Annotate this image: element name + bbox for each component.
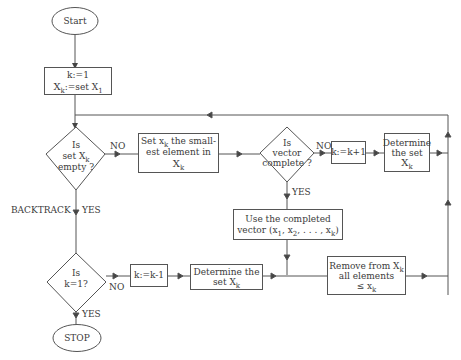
determine2-line2: set Xk	[213, 277, 240, 287]
use-vector-line2: vector (x1, x2, . . . , xk)	[237, 225, 338, 236]
empty-no-label: NO	[110, 141, 125, 151]
remove-elements-box: Remove from Xk all elements ≤ xk	[327, 256, 406, 295]
empty-line2: set Xk	[62, 151, 89, 162]
complete-line1: Is	[283, 138, 291, 148]
empty-decision: Is set Xk empty ?	[52, 136, 100, 176]
use-vector-line1: Use the completed	[245, 214, 331, 225]
start-label: Start	[63, 16, 86, 27]
remove-line2: all elements	[339, 271, 394, 281]
set-smallest-line1: Set xk the small-	[141, 136, 216, 147]
set-smallest-line3: Xk	[173, 158, 184, 170]
determine1-line3: Xk	[401, 158, 412, 168]
empty-yes-label: YES	[82, 205, 101, 215]
determine2-line1: Determine the	[194, 267, 260, 277]
k1-decision: Is k=1?	[56, 266, 96, 292]
remove-line3: ≤ xk	[357, 281, 377, 291]
init-box: k:=1 Xk:=set X1	[44, 67, 112, 95]
determine-set-box-1: Determine the set Xk	[384, 133, 430, 172]
k1-yes-label: YES	[82, 309, 101, 319]
init-line1: k:=1	[67, 70, 89, 81]
empty-line1: Is	[72, 140, 80, 151]
flowchart-connectors	[0, 0, 461, 360]
empty-line3: empty ?	[58, 162, 94, 173]
complete-yes-label: YES	[292, 187, 311, 197]
increment-k-box: k:=k+1	[331, 141, 366, 164]
determine1-line1: Determine	[383, 138, 431, 148]
init-line2: Xk:=set X1	[53, 81, 102, 93]
complete-no-label: NO	[316, 141, 331, 151]
stop-label: STOP	[64, 333, 90, 344]
start-terminal: Start	[52, 8, 98, 35]
increment-k-label: k:=k+1	[331, 147, 366, 158]
decrement-k-box: k:=k-1	[130, 264, 168, 287]
complete-line3: complete ?	[262, 158, 312, 168]
complete-decision: Is vector complete ?	[262, 135, 312, 171]
backtrack-label: BACKTRACK	[11, 205, 71, 215]
decrement-k-label: k:=k-1	[134, 270, 164, 281]
k1-line2: k=1?	[64, 279, 88, 290]
set-smallest-line2: est element in	[146, 147, 211, 158]
determine-set-box-2: Determine the set Xk	[190, 264, 263, 290]
stop-terminal: STOP	[53, 325, 101, 352]
set-smallest-box: Set xk the small- est element in Xk	[138, 133, 219, 173]
k1-no-label: NO	[109, 282, 124, 292]
use-vector-box: Use the completed vector (x1, x2, . . . …	[233, 209, 343, 240]
complete-line2: vector	[273, 148, 302, 158]
k1-line1: Is	[72, 268, 80, 279]
remove-line1: Remove from Xk	[329, 261, 403, 271]
